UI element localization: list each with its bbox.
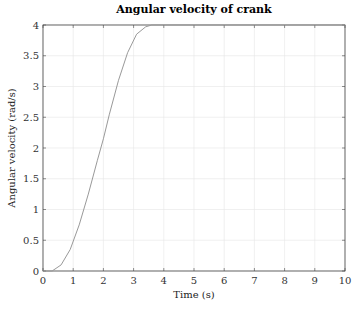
x-tick-label: 1: [70, 275, 76, 286]
x-tick-label: 8: [281, 275, 287, 286]
y-tick-label: 1: [33, 204, 39, 215]
x-tick-label: 3: [130, 275, 136, 286]
y-tick-label: 3.5: [23, 50, 39, 61]
x-axis-label: Time (s): [173, 289, 214, 300]
x-tick-label: 5: [191, 275, 197, 286]
y-axis-label: Angular velocity (rad/s): [6, 88, 17, 209]
x-tick-label: 10: [339, 275, 352, 286]
x-tick-label: 4: [161, 275, 167, 286]
y-tick-label: 2: [33, 143, 39, 154]
x-tick-label: 7: [251, 275, 257, 286]
chart-title: Angular velocity of crank: [115, 3, 272, 16]
grid-lines: [43, 25, 345, 271]
line-chart: Angular velocity of crank 01234567891000…: [0, 0, 356, 314]
x-tick-label: 9: [312, 275, 318, 286]
x-tick-label: 0: [40, 275, 46, 286]
axis-ticks: 01234567891000.511.522.533.54: [23, 20, 351, 287]
x-tick-label: 6: [221, 275, 227, 286]
y-tick-label: 1.5: [23, 173, 39, 184]
y-tick-label: 2.5: [23, 112, 39, 123]
x-tick-label: 2: [100, 275, 106, 286]
y-tick-label: 0: [33, 266, 39, 277]
y-tick-label: 3: [33, 81, 39, 92]
y-tick-label: 0.5: [23, 235, 39, 246]
y-tick-label: 4: [33, 20, 39, 31]
